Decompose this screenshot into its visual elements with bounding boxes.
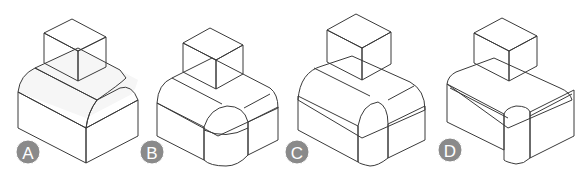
base-right-face <box>530 90 574 158</box>
cube-top <box>327 14 391 48</box>
base-right-face <box>248 107 278 155</box>
fillet-line-left <box>450 88 508 118</box>
label-a: A <box>22 144 34 163</box>
label-c: C <box>291 144 303 163</box>
cube-left <box>183 43 216 89</box>
cube-left <box>327 30 362 80</box>
cube-left <box>474 33 509 81</box>
rounded-corner <box>204 106 248 166</box>
rounded-corner <box>358 102 388 166</box>
cube-top <box>44 19 106 51</box>
fillet-line-right <box>530 94 572 116</box>
cube-top <box>183 28 243 60</box>
base-right-face <box>388 106 425 158</box>
corner-seam <box>204 128 248 135</box>
shape-a: A <box>16 19 138 164</box>
shape-b: B <box>140 28 278 166</box>
figure-canvas: A B C <box>0 0 588 176</box>
shape-d: D <box>438 18 574 164</box>
fillet-line-left <box>172 78 222 104</box>
fillet-line-right <box>244 94 270 108</box>
base-top-face <box>157 58 278 136</box>
cube-right <box>509 36 537 81</box>
label-b: B <box>146 144 157 163</box>
cube-right <box>362 32 391 80</box>
rounded-corner <box>504 106 530 164</box>
shape-c: C <box>285 14 425 166</box>
fillet-line-right <box>388 86 414 100</box>
label-d: D <box>444 142 456 161</box>
cube-top <box>474 18 537 51</box>
